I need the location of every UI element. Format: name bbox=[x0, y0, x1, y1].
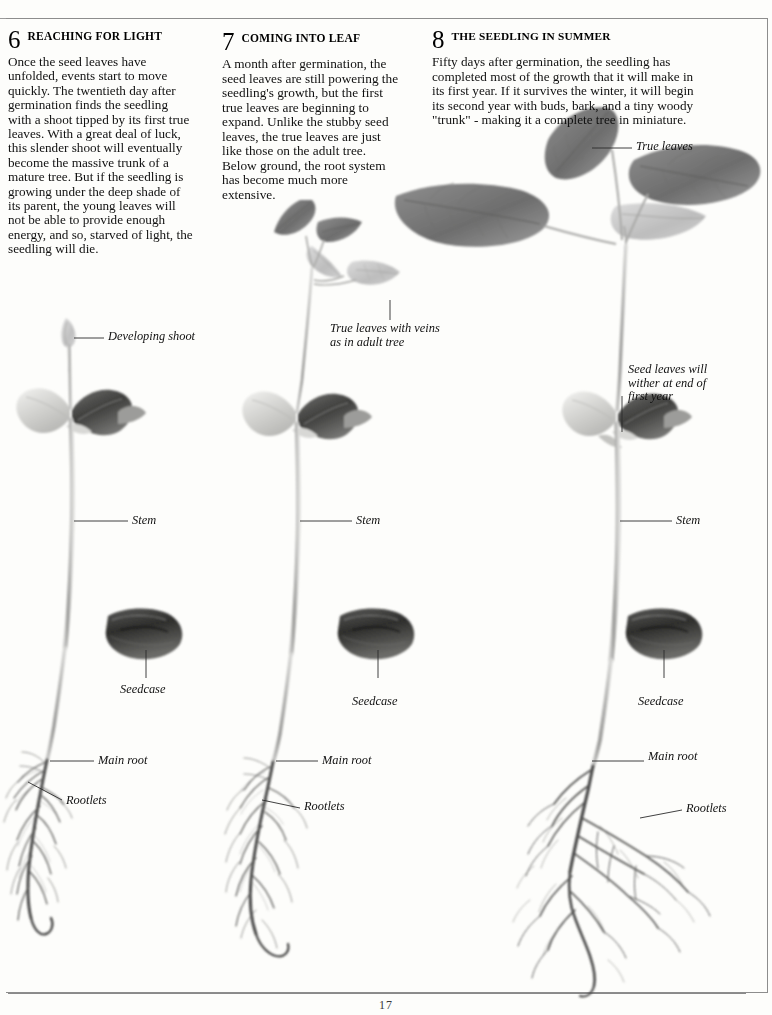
seedling-stage-6 bbox=[4, 318, 182, 934]
leader-rootlets-2 bbox=[262, 800, 300, 808]
section-6-title: REACHING FOR LIGHT bbox=[8, 28, 194, 43]
label-rootlets-1: Rootlets bbox=[66, 794, 107, 808]
section-7-number: 7 bbox=[222, 30, 242, 54]
label-true-leaves-veins-line2: as in adult tree bbox=[330, 335, 404, 349]
section-column-6: 6 REACHING FOR LIGHT Once the seed leave… bbox=[8, 28, 194, 257]
section-7-title: COMING INTO LEAF bbox=[222, 30, 402, 45]
leader-rootlets-3 bbox=[640, 810, 682, 818]
label-true-leaves-veins-line1: True leaves with veins bbox=[330, 321, 440, 335]
seedcase-1 bbox=[106, 609, 183, 660]
label-true-leaves-with-veins: True leaves with veins as in adult tree bbox=[330, 322, 450, 349]
label-seed-leaves-wither: Seed leaves will wither at end of first … bbox=[628, 363, 740, 404]
label-main-root-2: Main root bbox=[322, 754, 371, 768]
section-7-body: A month after germination, the seed leav… bbox=[222, 57, 402, 202]
label-rootlets-3: Rootlets bbox=[686, 802, 727, 816]
seed-leaves-2 bbox=[242, 392, 372, 440]
label-main-root-3: Main root bbox=[648, 750, 697, 764]
label-stem-3: Stem bbox=[676, 514, 700, 528]
section-8-body: Fifty days after germination, the seedli… bbox=[432, 55, 704, 128]
seedling-stage-8 bbox=[395, 107, 760, 996]
section-column-8: 8 THE SEEDLING IN SUMMER Fifty days afte… bbox=[432, 28, 704, 128]
label-main-root-1: Main root bbox=[98, 754, 147, 768]
root-system-1 bbox=[4, 752, 72, 934]
label-stem-1: Stem bbox=[132, 514, 156, 528]
seedling-stage-7 bbox=[225, 200, 414, 956]
section-8-heading: 8 THE SEEDLING IN SUMMER bbox=[432, 28, 704, 54]
true-leaves-3 bbox=[395, 107, 760, 246]
seed-leaves-1 bbox=[16, 388, 146, 435]
leader-rootlets-1 bbox=[28, 782, 62, 800]
section-6-body: Once the seed leaves have unfolded, even… bbox=[8, 55, 194, 257]
label-seedcase-1: Seedcase bbox=[120, 683, 165, 697]
label-true-leaves: True leaves bbox=[636, 140, 693, 154]
label-rootlets-2: Rootlets bbox=[304, 800, 345, 814]
true-leaves-2 bbox=[274, 200, 400, 285]
root-system-3 bbox=[513, 766, 710, 997]
section-8-number: 8 bbox=[432, 28, 452, 52]
label-seed-leaves-wither-line2: wither at end of bbox=[628, 376, 706, 390]
section-6-number: 6 bbox=[8, 28, 28, 52]
label-seed-leaves-wither-line3: first year bbox=[628, 389, 673, 403]
label-stem-2: Stem bbox=[356, 514, 380, 528]
section-7-heading: 7 COMING INTO LEAF bbox=[222, 30, 402, 56]
seedcase-2 bbox=[338, 609, 415, 660]
root-system-2 bbox=[225, 758, 307, 956]
label-seedcase-2: Seedcase bbox=[352, 695, 397, 709]
section-8-title: THE SEEDLING IN SUMMER bbox=[432, 28, 704, 43]
label-seed-leaves-wither-line1: Seed leaves will bbox=[628, 362, 707, 376]
label-developing-shoot: Developing shoot bbox=[108, 330, 195, 344]
label-seedcase-3: Seedcase bbox=[638, 695, 683, 709]
section-column-7: 7 COMING INTO LEAF A month after germina… bbox=[222, 30, 402, 202]
section-6-heading: 6 REACHING FOR LIGHT bbox=[8, 28, 194, 54]
